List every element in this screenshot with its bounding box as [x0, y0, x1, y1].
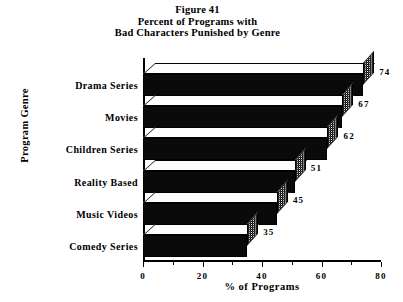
- x-axis-minor-tick: [173, 262, 174, 265]
- bar-value-label: 74: [379, 67, 390, 77]
- x-axis-tick-label: 40: [256, 271, 267, 281]
- y-axis-category-label: Movies: [18, 112, 138, 123]
- x-axis-tick: [322, 262, 323, 267]
- x-axis-minor-tick: [351, 262, 352, 265]
- x-axis-title: % of Programs: [143, 281, 381, 292]
- y-axis-category-label: Drama Series: [18, 80, 138, 91]
- bar-front-face: [143, 106, 342, 128]
- plot-area: 020406080746762514535: [143, 58, 381, 262]
- bar-top-face: [143, 127, 340, 138]
- x-axis-tick: [203, 262, 204, 267]
- bar-top-face: [143, 63, 375, 74]
- bar-value-label: 45: [293, 195, 304, 205]
- x-axis-tick-label: 0: [140, 271, 146, 281]
- bar-front-face: [143, 235, 247, 257]
- y-axis-category-label: Comedy Series: [18, 240, 138, 251]
- bar-value-label: 62: [343, 131, 354, 141]
- x-axis-tick-label: 60: [316, 271, 327, 281]
- x-axis-tick-label: 20: [197, 271, 208, 281]
- x-axis-tick: [143, 262, 144, 267]
- bar-top-face: [143, 160, 307, 171]
- chart-title-line-1: Figure 41: [0, 4, 395, 16]
- bar-top-face: [143, 95, 355, 106]
- y-axis-category-label: Music Videos: [18, 208, 138, 219]
- bar-top-face: [143, 224, 259, 235]
- y-axis-category-label: Children Series: [18, 144, 138, 155]
- bar-front-face: [143, 74, 363, 96]
- y-axis-category-label: Reality Based: [18, 176, 138, 187]
- x-axis-minor-tick: [232, 262, 233, 265]
- bar-top-face: [143, 192, 289, 203]
- bar-side-face: [363, 51, 374, 85]
- x-axis-tick: [381, 262, 382, 267]
- bar-value-label: 67: [358, 99, 369, 109]
- x-axis-tick-label: 80: [375, 271, 386, 281]
- y-axis-category-labels: Drama SeriesMoviesChildren SeriesReality…: [18, 60, 138, 260]
- chart-title-line-2: Percent of Programs with: [0, 16, 395, 28]
- bar-value-label: 51: [311, 163, 322, 173]
- chart-title: Figure 41 Percent of Programs with Bad C…: [0, 4, 395, 39]
- x-axis-minor-tick: [292, 262, 293, 265]
- x-axis-tick: [262, 262, 263, 267]
- chart-title-line-3: Bad Characters Punished by Genre: [0, 27, 395, 39]
- figure-41-chart: Figure 41 Percent of Programs with Bad C…: [0, 0, 403, 302]
- bar-value-label: 35: [263, 227, 274, 237]
- bar-front-face: [143, 171, 295, 193]
